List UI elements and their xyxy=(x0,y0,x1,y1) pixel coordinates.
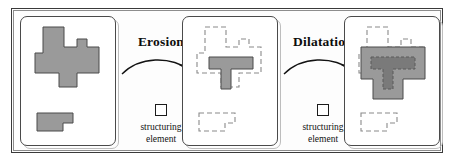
panel-original-canvas xyxy=(21,17,117,147)
panel-opened-canvas xyxy=(345,17,441,147)
morphology-figure: Erosion structuring element Dilatation s… xyxy=(0,0,457,168)
small-outline xyxy=(199,113,235,131)
panel-eroded xyxy=(182,16,278,146)
dilatation-structuring-element-square-icon xyxy=(317,104,329,116)
small-outline xyxy=(361,113,397,131)
panel-opened xyxy=(344,16,440,146)
small-polygon xyxy=(37,113,73,131)
erosion-structuring-element-square-icon xyxy=(155,104,167,116)
main-polygon xyxy=(35,27,99,87)
panel-eroded-canvas xyxy=(183,17,279,147)
panel-original xyxy=(20,16,116,146)
